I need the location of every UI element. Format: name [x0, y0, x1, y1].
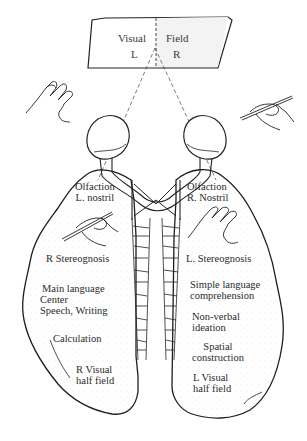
label-stereognosis-left-hand: L. Stereognosis [186, 253, 251, 264]
label-right-visual-half-field: R Visual half field [76, 364, 114, 386]
visual-field-right-word: Field [166, 32, 189, 44]
visual-field-panel [88, 17, 232, 68]
label-calculation: Calculation [53, 333, 101, 344]
visual-field-left-side: L [131, 48, 138, 60]
label-olfaction-right: Olfaction R. Nostril [187, 181, 228, 203]
label-spatial-construction: Spatial construction [192, 341, 244, 363]
visual-field-right-side: R [173, 48, 180, 60]
left-eye [87, 116, 129, 160]
label-olfaction-left: Olfaction L. nostril [75, 181, 115, 203]
label-main-language-center: Main language Center Speech, Writing [40, 283, 108, 316]
label-stereognosis-right-hand: R Stereognosis [46, 253, 109, 264]
label-left-visual-half-field: L Visual half field [193, 372, 231, 394]
pen-hand-icon-right [240, 96, 294, 130]
label-simple-language-comprehension: Simple language comprehension [190, 279, 260, 301]
split-brain-diagram [0, 0, 307, 441]
right-eye [184, 116, 226, 160]
label-non-verbal-ideation: Non-verbal ideation [192, 311, 240, 333]
visual-field-left-word: Visual [118, 32, 146, 44]
open-hand-icon-left [26, 81, 73, 122]
